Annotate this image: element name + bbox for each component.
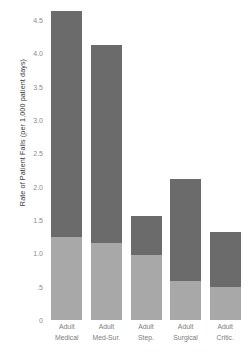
x-axis-tick-2: AdultMed-Sur.	[87, 322, 127, 343]
y-axis-tick-3: 3.0	[33, 117, 43, 124]
bar-4-upper-segment[interactable]	[170, 179, 201, 281]
y-axis-tick-4: 4.0	[33, 50, 43, 57]
plot-area: AdultMedicalAdultMed-Sur.AdultStep.Adult…	[47, 0, 245, 363]
bar-5-upper-segment[interactable]	[210, 232, 241, 287]
bar-1[interactable]	[51, 11, 82, 320]
bar-2[interactable]	[91, 45, 122, 320]
bar-1-upper-segment[interactable]	[51, 11, 82, 236]
x-axis-tick-5-line-1: Adult	[205, 322, 245, 333]
x-axis-tick-4-line-1: Adult	[166, 322, 206, 333]
y-axis-tick-2-5: 2.5	[33, 150, 43, 157]
x-axis-tick-2-line-2: Med-Sur.	[87, 333, 127, 344]
bar-4-lower-segment[interactable]	[170, 281, 201, 320]
x-axis-tick-5-line-2: Critic.	[205, 333, 245, 344]
bar-2-upper-segment[interactable]	[91, 45, 122, 243]
bar-5-lower-segment[interactable]	[210, 287, 241, 320]
bar-3-lower-segment[interactable]	[131, 255, 162, 320]
bar-4[interactable]	[170, 179, 201, 320]
bar-3[interactable]	[131, 216, 162, 320]
y-axis-tick-2: 2.0	[33, 183, 43, 190]
y-axis-tick-1-5: 1.5	[33, 217, 43, 224]
y-axis-tick-3-5: 3.5	[33, 83, 43, 90]
x-axis-tick-1: AdultMedical	[47, 322, 87, 343]
y-axis-tick-labels: 4.54.03.53.02.52.01.51.0.50	[0, 0, 47, 363]
x-axis-tick-3-line-1: Adult	[126, 322, 166, 333]
x-axis-tick-2-line-1: Adult	[87, 322, 127, 333]
x-axis-tick-3: AdultStep.	[126, 322, 166, 343]
bar-2-lower-segment[interactable]	[91, 243, 122, 320]
x-axis-tick-3-line-2: Step.	[126, 333, 166, 344]
bar-1-lower-segment[interactable]	[51, 237, 82, 320]
x-axis-tick-1-line-1: Adult	[47, 322, 87, 333]
y-axis-tick-4-5: 4.5	[33, 17, 43, 24]
y-axis-tick-0: 0	[39, 317, 43, 324]
y-axis-tick-0-5: .5	[37, 283, 43, 290]
x-axis-tick-4: AdultSurgical	[166, 322, 206, 343]
y-axis-tick-1: 1.0	[33, 250, 43, 257]
x-axis-tick-4-line-2: Surgical	[166, 333, 206, 344]
x-axis-tick-1-line-2: Medical	[47, 333, 87, 344]
bar-5[interactable]	[210, 232, 241, 320]
patient-falls-stacked-bar-chart: Rate of Patient Falls (per 1,000 patient…	[0, 0, 245, 363]
x-axis-tick-5: AdultCritic.	[205, 322, 245, 343]
bar-3-upper-segment[interactable]	[131, 216, 162, 255]
